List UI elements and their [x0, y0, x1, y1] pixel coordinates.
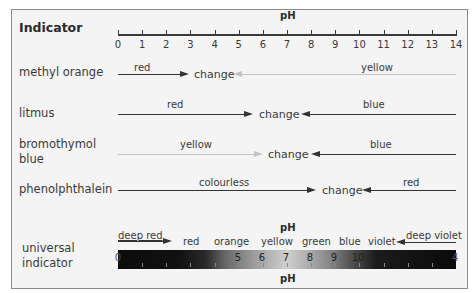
axis-tick-label: 2	[156, 39, 176, 50]
base-range-line	[320, 154, 456, 155]
axis-tick	[384, 30, 385, 35]
colour-orange: orange	[214, 236, 249, 247]
acid-colour-label: yellow	[180, 139, 212, 150]
axis-tick	[456, 30, 457, 35]
axis-tick-label: 14	[446, 39, 466, 50]
ph-axis-label: pH	[280, 10, 296, 21]
arrow-right-icon	[307, 187, 316, 193]
bar-tick	[287, 263, 288, 267]
bar-tick	[335, 263, 336, 267]
indicator-name-universal: universal indicator	[22, 241, 75, 271]
bar-tick	[215, 263, 216, 267]
bar-tick	[384, 263, 385, 267]
arrow-right-icon	[163, 238, 172, 244]
bar-tick	[359, 263, 360, 267]
acid-range-line	[118, 114, 244, 115]
arrow-left-icon	[233, 71, 242, 77]
axis-tick	[432, 30, 433, 35]
axis-tick	[311, 30, 312, 35]
universal-ph-label-top: pH	[280, 222, 296, 233]
name-line-2: blue	[19, 152, 96, 167]
acid-range-line	[118, 74, 180, 75]
arrow-right-icon	[254, 151, 263, 157]
indicator-name-phenolphthalein: phenolphthalein	[19, 182, 112, 197]
bar-tick	[190, 263, 191, 267]
base-range-line	[242, 74, 456, 75]
axis-tick	[190, 30, 191, 35]
axis-tick	[215, 30, 216, 35]
deep-violet-label: deep violet	[406, 230, 462, 241]
name-line-1: bromothymol	[19, 137, 96, 152]
axis-tick-label: 8	[301, 39, 321, 50]
colour-red: red	[183, 236, 199, 247]
axis-tick	[408, 30, 409, 35]
axis-tick-label: 12	[398, 39, 418, 50]
axis-tick-label: 5	[229, 39, 249, 50]
axis-tick	[166, 30, 167, 35]
deep-violet-line	[405, 242, 456, 243]
base-colour-label: red	[403, 177, 419, 188]
axis-tick-label: 1	[132, 39, 152, 50]
name-line-2: indicator	[22, 256, 75, 271]
name-line-1: universal	[22, 241, 75, 256]
axis-tick-label: 11	[374, 39, 394, 50]
arrow-right-icon	[244, 111, 253, 117]
acid-colour-label: red	[134, 62, 150, 73]
axis-tick-label: 6	[253, 39, 273, 50]
base-colour-label: blue	[370, 139, 392, 150]
axis-tick-label: 3	[180, 39, 200, 50]
bar-tick	[311, 263, 312, 267]
bar-tick	[432, 263, 433, 267]
deep-red-label: deep red	[118, 230, 163, 241]
axis-tick-label: 4	[205, 39, 225, 50]
bar-tick	[263, 263, 264, 267]
bar-tick	[408, 263, 409, 267]
arrow-left-icon	[396, 239, 405, 245]
axis-tick	[263, 30, 264, 35]
axis-tick-label: 0	[108, 39, 128, 50]
base-colour-label: blue	[363, 99, 385, 110]
acid-range-line	[118, 154, 254, 155]
acid-colour-label: red	[167, 99, 183, 110]
arrow-left-icon	[311, 151, 320, 157]
colour-blue: blue	[339, 236, 361, 247]
indicator-heading: Indicator	[19, 20, 82, 35]
arrow-left-icon	[362, 187, 371, 193]
indicator-name-litmus: litmus	[19, 106, 54, 121]
colour-violet: violet	[368, 236, 396, 247]
axis-tick	[359, 30, 360, 35]
axis-tick	[118, 30, 119, 35]
arrow-right-icon	[180, 71, 189, 77]
universal-ph-label-bottom: pH	[280, 273, 296, 284]
axis-tick-label: 9	[325, 39, 345, 50]
colour-green: green	[302, 236, 331, 247]
axis-tick-label: 10	[349, 39, 369, 50]
bar-tick	[166, 263, 167, 267]
axis-tick	[287, 30, 288, 35]
base-range-line	[371, 190, 456, 191]
bar-tick	[142, 263, 143, 267]
change-label: change	[194, 68, 234, 81]
axis-tick	[335, 30, 336, 35]
bar-tick	[239, 263, 240, 267]
axis-tick	[142, 30, 143, 35]
change-label: change	[322, 184, 362, 197]
axis-tick-label: 13	[422, 39, 442, 50]
indicator-name-methyl-orange: methyl orange	[19, 65, 103, 80]
change-label: change	[268, 148, 308, 161]
acid-range-line	[118, 190, 307, 191]
axis-tick-label: 7	[277, 39, 297, 50]
acid-colour-label: colourless	[199, 177, 249, 188]
change-label: change	[259, 108, 299, 121]
base-range-line	[310, 114, 456, 115]
axis-tick	[239, 30, 240, 35]
indicator-name-bromothymol-blue: bromothymol blue	[19, 137, 96, 167]
deep-red-line	[118, 241, 164, 242]
arrow-left-icon	[301, 111, 310, 117]
colour-yellow: yellow	[261, 236, 293, 247]
base-colour-label: yellow	[361, 62, 393, 73]
